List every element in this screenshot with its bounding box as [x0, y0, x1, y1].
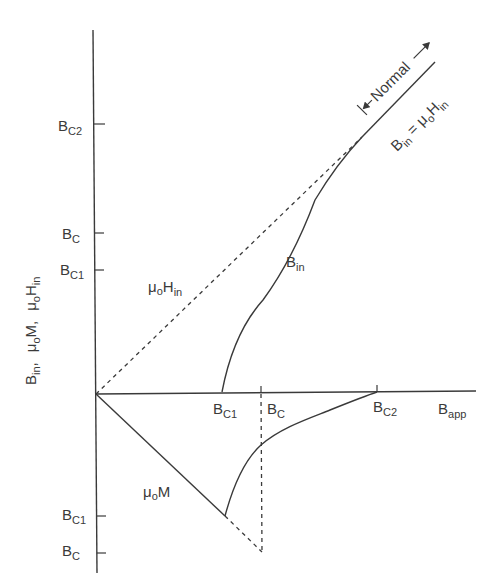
x-label-bc: BC	[267, 400, 285, 420]
magnetization-diagram: Normal Bin = μoHin BC2 BC BC1 BC1 BC Bin…	[0, 0, 502, 583]
b-in-label: Bin	[286, 253, 305, 273]
y-label-neg-bc1: BC1	[62, 506, 86, 526]
x-axis-title: Bapp	[438, 400, 466, 420]
normal-label: Normal	[367, 58, 413, 104]
y-label-bc: BC	[62, 225, 80, 245]
mu-m-label: μoM	[143, 483, 170, 502]
y-label-bc2: BC2	[58, 117, 82, 137]
y-label-bc1: BC1	[60, 261, 84, 281]
y-axis-title: Bin,μoM,μoHin	[22, 277, 42, 385]
y-label-neg-bc: BC	[62, 542, 80, 562]
x-axis	[96, 391, 476, 394]
x-label-bc1: BC1	[213, 400, 237, 420]
bc-vertical-dashed	[261, 394, 262, 552]
mu-m-dashed-extension	[225, 516, 262, 552]
mu-m-curve	[225, 392, 377, 516]
mu-h-in-label: μoHin	[148, 278, 182, 298]
mu-h-in-line	[96, 137, 362, 394]
y-axis	[93, 30, 97, 573]
x-label-bc2: BC2	[373, 398, 397, 418]
